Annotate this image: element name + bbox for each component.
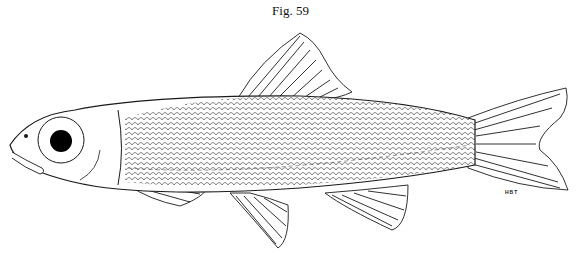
- anal-fin: [325, 185, 408, 230]
- caudal-fin: [468, 88, 568, 190]
- dorsal-fin: [238, 33, 352, 100]
- eye-pupil: [50, 130, 72, 152]
- artist-initials: HBT: [505, 189, 518, 195]
- pelvic-fin: [230, 193, 288, 248]
- fish-illustration: [0, 0, 581, 253]
- nostril-icon: [24, 134, 28, 138]
